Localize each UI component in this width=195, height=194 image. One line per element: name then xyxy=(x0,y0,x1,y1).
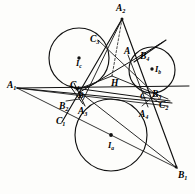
point-label-text: C xyxy=(140,91,146,101)
dot-Ib-icon xyxy=(150,67,153,70)
point-label-A2: A2 xyxy=(116,4,125,14)
dot-B1-icon xyxy=(175,166,178,169)
point-label-text: H xyxy=(111,78,118,88)
point-label-C3: C3 xyxy=(90,35,99,45)
point-label-subscript: 1 xyxy=(13,84,16,91)
point-label-A3: A3 xyxy=(78,107,87,117)
point-label-H: H xyxy=(111,79,118,89)
point-label-Ic: Ic xyxy=(76,59,82,68)
point-label-C: C xyxy=(140,92,146,101)
point-label-subscript: 3 xyxy=(96,38,99,45)
point-label-subscript: c xyxy=(79,63,81,69)
point-label-B4: B4 xyxy=(140,52,149,62)
point-label-C1: C1 xyxy=(56,117,65,127)
point-label-subscript: 1 xyxy=(62,120,65,127)
point-label-subscript: a xyxy=(111,145,114,151)
point-label-subscript: 2 xyxy=(165,104,168,111)
point-label-Ib: Ib xyxy=(155,65,161,74)
point-label-subscript: 3 xyxy=(158,93,161,100)
point-label-A1: A1 xyxy=(7,81,16,91)
point-label-B2: B2 xyxy=(59,102,68,112)
point-label-subscript: 2 xyxy=(122,7,125,14)
point-label-C2: C2 xyxy=(159,101,168,111)
point-label-subscript: 3 xyxy=(84,110,87,117)
dot-A2-icon xyxy=(121,18,124,21)
dot-Ia-icon xyxy=(109,133,113,137)
point-label-subscript: b xyxy=(158,69,161,75)
geometry-figure: A2C3AB4IcIbHA1C4BCB3C2B2A3A4C1IaB1 xyxy=(0,0,195,194)
point-label-A: A xyxy=(124,47,130,57)
point-label-subscript: 1 xyxy=(184,174,187,181)
point-label-text: B xyxy=(78,90,84,100)
point-label-Ia: Ia xyxy=(108,141,114,150)
point-label-B3: B3 xyxy=(152,90,161,100)
point-label-subscript: 2 xyxy=(65,105,68,112)
point-label-B1: B1 xyxy=(178,171,187,181)
point-label-B: B xyxy=(78,91,84,100)
point-label-text: A xyxy=(124,46,130,56)
geometry-points-layer xyxy=(0,0,195,194)
point-label-subscript: 4 xyxy=(146,55,149,62)
point-label-A4: A4 xyxy=(139,110,148,120)
point-label-subscript: 4 xyxy=(145,113,148,120)
